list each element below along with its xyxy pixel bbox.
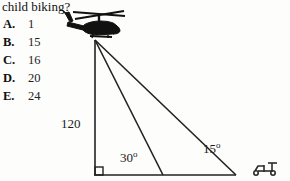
angle-label-near: 30o bbox=[120, 150, 138, 166]
cyclist-icon bbox=[254, 163, 277, 175]
angle-degree-symbol: o bbox=[216, 140, 221, 150]
right-angle-marker-icon bbox=[95, 167, 103, 175]
angle-degree-symbol: o bbox=[133, 149, 138, 159]
angle-label-far-value: 15 bbox=[203, 141, 216, 156]
worksheet-page: child biking? A. 1 B. 15 C. 16 D. 20 E. … bbox=[0, 0, 290, 181]
helicopter-icon bbox=[63, 11, 125, 38]
angle-label-near-value: 30 bbox=[120, 150, 133, 165]
angle-label-far: 15o bbox=[203, 141, 221, 157]
geometry-diagram bbox=[0, 0, 290, 181]
height-label: 120 bbox=[61, 116, 81, 132]
